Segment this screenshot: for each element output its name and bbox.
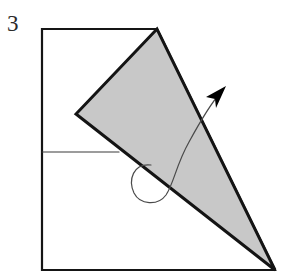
geometry-figure-canvas: 3 <box>0 0 287 280</box>
figure-container: 3 <box>0 0 287 280</box>
figure-number-label: 3 <box>7 11 19 36</box>
